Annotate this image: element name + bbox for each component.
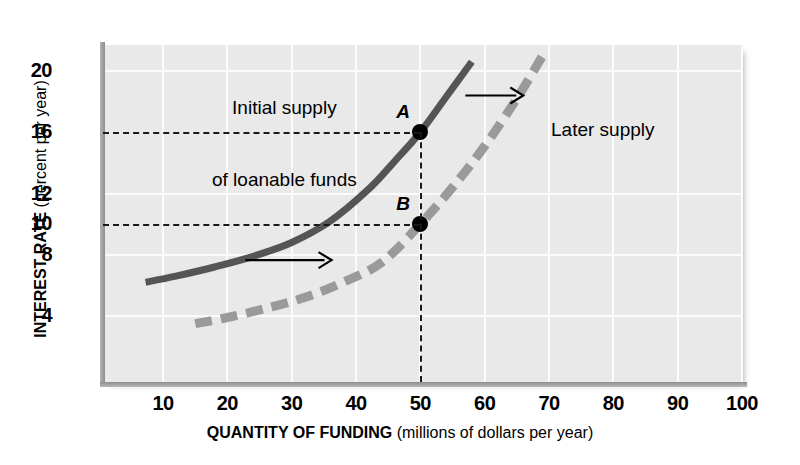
figure-loanable-funds: INTEREST RATE (percent per year) 2016121… <box>0 0 800 465</box>
arrow-layer <box>0 0 800 465</box>
